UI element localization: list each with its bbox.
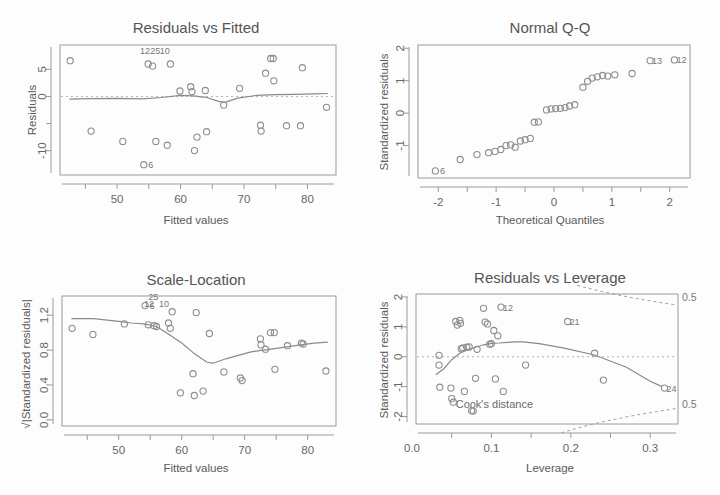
data-point-label: 12 <box>676 55 686 65</box>
data-point <box>500 388 506 394</box>
data-point <box>190 371 196 377</box>
y-axis-label: Residuals <box>26 85 38 136</box>
panel-residuals-vs-leverage: Residuals vs Leverage 0.00.10.20.3-2-101… <box>360 248 720 495</box>
data-point <box>257 336 263 342</box>
panel-scale-location: Scale-Location 506070800.00.40.81.262512… <box>0 248 360 495</box>
data-point <box>457 156 463 162</box>
data-point <box>200 388 206 394</box>
data-point <box>237 85 243 91</box>
data-point-label: 13 <box>652 56 662 66</box>
normal-qq-svg: Normal Q-Q -2-1012-101261312 Theoretical… <box>360 0 720 248</box>
x-tick-label: 0 <box>551 196 557 208</box>
x-tick-label: 70 <box>238 444 251 456</box>
y-axis-label: Standardized residuals <box>378 53 390 170</box>
x-axis-label: Fitted values <box>163 214 228 226</box>
data-point <box>284 343 290 349</box>
data-point <box>191 392 197 398</box>
y-tick-label: -2 <box>392 411 404 421</box>
data-point <box>486 150 492 156</box>
data-point <box>67 58 73 64</box>
cooks-contour-upper <box>577 285 675 305</box>
y-tick-label: 1.2 <box>38 307 50 323</box>
data-point <box>221 369 227 375</box>
data-point <box>448 385 454 391</box>
data-point-label: 10 <box>160 46 170 56</box>
data-point <box>629 70 635 76</box>
y-tick-label: -1 <box>394 140 406 150</box>
cooks-contour-label-upper: 0.5 <box>682 291 697 303</box>
data-point <box>177 88 183 94</box>
data-point <box>206 330 212 336</box>
data-point <box>169 309 175 315</box>
data-point <box>612 72 618 78</box>
data-point <box>271 330 277 336</box>
loess-smoother <box>70 94 328 103</box>
data-point <box>221 102 227 108</box>
panel-title: Normal Q-Q <box>510 19 591 36</box>
data-point <box>164 142 170 148</box>
data-point <box>492 376 498 382</box>
panel-title: Residuals vs Leverage <box>474 269 626 286</box>
data-point-label: 6 <box>440 166 445 176</box>
data-point <box>323 368 329 374</box>
data-point <box>153 138 159 144</box>
y-tick-label: 0.4 <box>38 376 50 393</box>
plot-frame <box>62 296 336 426</box>
x-tick-label: 50 <box>112 444 125 456</box>
data-point <box>263 70 269 76</box>
data-point <box>297 123 303 129</box>
data-point <box>69 325 75 331</box>
scale-location-svg: Scale-Location 506070800.00.40.81.262512… <box>0 248 360 495</box>
y-tick-label: -1 <box>392 382 404 392</box>
cooks-contour-lower <box>561 409 675 433</box>
y-tick-label: 2 <box>392 294 404 300</box>
data-point <box>474 152 480 158</box>
data-point-label: 21 <box>570 317 580 327</box>
x-tick-label: 0.0 <box>404 442 420 454</box>
data-point <box>194 134 200 140</box>
y-tick-label: 0 <box>392 354 404 360</box>
x-tick-label: 60 <box>175 444 188 456</box>
data-point <box>177 390 183 396</box>
plot-frame <box>60 45 336 175</box>
x-tick-label: 80 <box>301 444 314 456</box>
data-point <box>461 388 467 394</box>
data-point-label: 24 <box>666 384 676 394</box>
data-point <box>436 362 442 368</box>
y-tick-label: 5 <box>36 66 48 72</box>
residuals-vs-fitted-svg: Residuals vs Fitted 5060708050-106122510… <box>0 0 360 248</box>
data-point <box>437 384 443 390</box>
data-point <box>283 123 289 129</box>
data-point-label: 6 <box>148 160 153 170</box>
x-axis-label: Theoretical Quantiles <box>496 214 605 226</box>
data-point <box>432 168 438 174</box>
x-tick-label: 70 <box>238 193 251 205</box>
data-point <box>167 61 173 67</box>
x-tick-label: 1 <box>609 196 615 208</box>
y-tick-label: 0.8 <box>38 342 50 358</box>
data-point <box>299 65 305 71</box>
data-point <box>535 119 541 125</box>
y-axis-label: √|Standardized residuals| <box>20 299 32 428</box>
x-axis-label: Leverage <box>526 462 574 474</box>
panel-title: Residuals vs Fitted <box>133 19 260 36</box>
y-tick-label: 2 <box>394 45 406 51</box>
y-tick-label: -10 <box>36 142 48 159</box>
x-axis-label: Fitted values <box>163 462 228 474</box>
x-tick-label: 50 <box>111 193 124 205</box>
data-point <box>323 104 329 110</box>
data-point <box>580 84 586 90</box>
data-point <box>523 362 529 368</box>
residuals-vs-leverage-svg: Residuals vs Leverage 0.00.10.20.3-2-101… <box>360 248 720 495</box>
data-point-label: 10 <box>159 299 169 309</box>
data-point <box>480 305 486 311</box>
data-point <box>90 331 96 337</box>
data-point <box>204 129 210 135</box>
data-point-label: 12 <box>503 303 513 313</box>
x-tick-label: -2 <box>433 196 443 208</box>
data-point-label: 12 <box>140 46 150 56</box>
y-axis-label: Standardized residuals <box>378 301 390 418</box>
panel-normal-qq: Normal Q-Q -2-1012-101261312 Theoretical… <box>360 0 720 248</box>
data-point <box>193 310 199 316</box>
data-point <box>120 138 126 144</box>
